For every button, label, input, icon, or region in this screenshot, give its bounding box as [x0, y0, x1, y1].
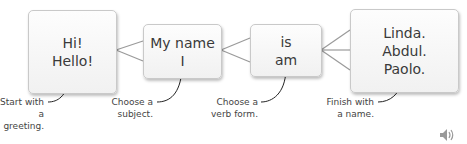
caption-line: verb form.: [200, 108, 258, 120]
caption-line: a name.: [320, 108, 374, 120]
box-line: Paolo.: [384, 60, 426, 78]
caption-line: subject.: [108, 108, 153, 120]
caption-subject: Choose a subject.: [108, 96, 153, 120]
speaker-icon[interactable]: [439, 127, 457, 144]
box-line: My name: [150, 34, 215, 52]
box-line: Linda.: [383, 24, 425, 42]
caption-verb: Choose a verb form.: [200, 96, 258, 120]
caption-name: Finish with a name.: [320, 96, 374, 120]
caption-line: Choose a: [200, 96, 258, 108]
subject-box: My name I: [143, 24, 222, 79]
verb-box: is am: [250, 24, 322, 77]
caption-line: a greeting.: [0, 108, 44, 132]
name-box: Linda. Abdul. Paolo.: [350, 9, 459, 93]
caption-greeting: Start with a greeting.: [0, 96, 44, 132]
box-line: is: [280, 33, 291, 51]
box-line: Abdul.: [382, 42, 427, 60]
box-line: am: [275, 51, 297, 69]
caption-line: Choose a: [108, 96, 153, 108]
caption-line: Start with: [0, 96, 44, 108]
box-line: I: [180, 52, 184, 70]
box-line: Hello!: [52, 52, 93, 70]
caption-line: Finish with: [320, 96, 374, 108]
box-line: Hi!: [62, 34, 82, 52]
greeting-box: Hi! Hello!: [28, 10, 117, 94]
